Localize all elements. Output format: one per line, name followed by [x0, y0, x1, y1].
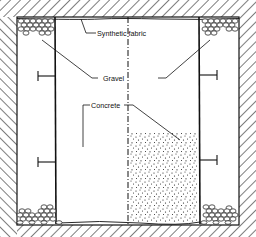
label-synthetic-fabric: Synthetic fabric: [97, 29, 147, 38]
concrete-fill: [130, 132, 198, 222]
left-panel: [55, 17, 56, 224]
label-gravel: Gravel: [103, 74, 125, 83]
right-panel: [199, 17, 200, 224]
cross-section-diagram: Synthetic fabric Gravel Concrete: [0, 0, 256, 237]
label-concrete: Concrete: [91, 101, 120, 110]
